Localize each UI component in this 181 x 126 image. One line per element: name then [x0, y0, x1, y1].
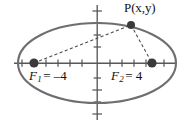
focus-2-label: F2= 4 [111, 69, 142, 84]
focus-1-label: F1= –4 [29, 69, 67, 84]
focus-2-point [147, 58, 156, 67]
ellipse-figure: P(x,y) F1= –4 F2= 4 [0, 0, 181, 126]
focus-2-value: = 4 [124, 68, 143, 83]
point-p-marker [127, 21, 135, 29]
ellipse-diagram-svg [0, 0, 181, 126]
point-p-label: P(x,y) [124, 1, 156, 14]
point-p-text: P(x,y) [124, 0, 156, 15]
focus-1-point [29, 58, 38, 67]
focus-1-value: = –4 [42, 68, 67, 83]
focus-1-symbol: F [29, 68, 37, 83]
focus-1-subscript: 1 [37, 74, 42, 84]
focus-2-symbol: F [111, 68, 119, 83]
focus-2-subscript: 2 [119, 74, 124, 84]
